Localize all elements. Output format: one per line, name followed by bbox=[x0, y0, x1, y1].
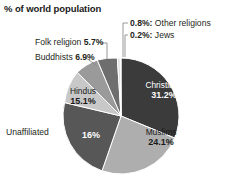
slice-value-muslims: 24.1% bbox=[137, 137, 185, 147]
slice-name-unaffiliated: Unaffiliated bbox=[6, 127, 49, 137]
slice-value-unaffiliated: 16% bbox=[76, 130, 106, 140]
slice-label-jews: 0.2%: Jews bbox=[130, 31, 174, 41]
slice-inlabel-hindus: Hindus 15.1% bbox=[61, 87, 105, 106]
slice-name-jews: Jews bbox=[152, 30, 174, 40]
slice-label-buddhists: Buddhists 6.9% bbox=[35, 53, 95, 63]
slice-value-jews: 0.2%: bbox=[130, 30, 152, 40]
slice-label-unaffiliated: Unaffiliated bbox=[6, 128, 49, 138]
pie-chart-figure: % of world population bbox=[0, 0, 230, 188]
slice-value-buddhists: 6.9% bbox=[75, 52, 95, 62]
slice-name-folk-religion: Folk religion bbox=[35, 37, 84, 47]
leader-line-jews bbox=[125, 35, 128, 57]
slice-inlabel-muslims: Muslims 24.1% bbox=[137, 128, 185, 147]
slice-name-other-religions: Other religions bbox=[152, 18, 210, 28]
slice-inlabel-unaffiliated: 16% bbox=[76, 130, 106, 140]
slice-label-other-religions: 0.8%: Other religions bbox=[130, 19, 211, 29]
slice-name-muslims: Muslims bbox=[146, 127, 177, 137]
slice-name-hindus: Hindus bbox=[70, 86, 96, 96]
slice-value-folk-religion: 5.7% bbox=[84, 37, 104, 47]
slice-label-folk-religion: Folk religion 5.7% bbox=[35, 38, 103, 48]
slice-name-christians: Christians bbox=[145, 80, 182, 90]
slice-value-christians: 31.2% bbox=[138, 90, 190, 100]
pie-slices bbox=[63, 58, 179, 174]
slice-name-buddhists: Buddhists bbox=[35, 52, 75, 62]
slice-inlabel-christians: Christians 31.2% bbox=[138, 81, 190, 100]
leader-line-other-religions bbox=[123, 23, 128, 57]
slice-value-other-religions: 0.8%: bbox=[130, 18, 152, 28]
slice-value-hindus: 15.1% bbox=[61, 96, 105, 106]
